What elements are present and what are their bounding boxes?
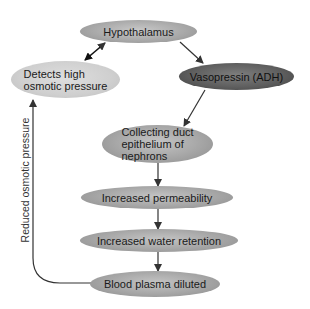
arrow-detect-hypothalamus bbox=[85, 43, 105, 60]
node-blood-plasma-diluted: Blood plasma diluted bbox=[90, 271, 220, 297]
node-collecting-label-line3: nephrons bbox=[121, 150, 193, 162]
node-increased-permeability: Increased permeability bbox=[81, 186, 233, 209]
node-collecting-duct: Collecting duct epithelium of nephrons bbox=[102, 125, 213, 163]
feedback-label: Reduced osmotic pressure bbox=[19, 118, 31, 243]
node-hypothalamus-label: Hypothalamus bbox=[103, 26, 173, 38]
node-detects-label-line1: Detects high bbox=[24, 68, 108, 80]
node-increased-water-retention: Increased water retention bbox=[80, 229, 238, 252]
node-vasopressin: Vasopressin (ADH) bbox=[179, 63, 294, 90]
arrow-vasopressin-collecting bbox=[184, 90, 205, 126]
feedback-arrow bbox=[33, 100, 91, 283]
node-detects-high-osmotic-pressure: Detects high osmotic pressure bbox=[11, 61, 120, 98]
node-collecting-label-line1: Collecting duct bbox=[121, 126, 193, 138]
node-detects-label-line2: osmotic pressure bbox=[24, 80, 108, 92]
node-vasopressin-label: Vasopressin (ADH) bbox=[190, 71, 283, 83]
feedback-diagram: Hypothalamus Detects high osmotic pressu… bbox=[0, 0, 310, 309]
node-water-retention-label: Increased water retention bbox=[97, 235, 221, 247]
node-collecting-label-line2: epithelium of bbox=[121, 138, 193, 150]
node-hypothalamus: Hypothalamus bbox=[80, 20, 197, 43]
node-permeability-label: Increased permeability bbox=[102, 192, 213, 204]
node-blood-plasma-label: Blood plasma diluted bbox=[104, 278, 206, 290]
arrow-hypothalamus-vasopressin bbox=[180, 42, 203, 63]
